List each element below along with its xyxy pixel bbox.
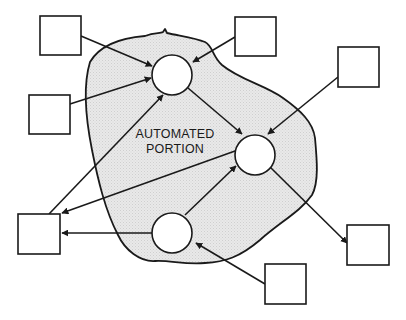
process-node-3 [152,213,192,253]
process-node-2 [235,135,275,175]
external-box-bottom-right [347,225,389,265]
external-box-left [29,95,70,134]
external-box-right [338,47,379,87]
label-line-2: PORTION [128,142,222,157]
external-box-bottom [265,264,306,304]
label-line-1: AUTOMATED [128,127,222,142]
external-box-top-left [40,16,81,55]
automated-portion-label: AUTOMATED PORTION [128,127,222,157]
process-node-1 [152,55,192,95]
automated-portion-diagram: AUTOMATED PORTION [0,0,406,320]
external-box-top [235,17,276,56]
external-box-bottom-left [18,214,60,254]
